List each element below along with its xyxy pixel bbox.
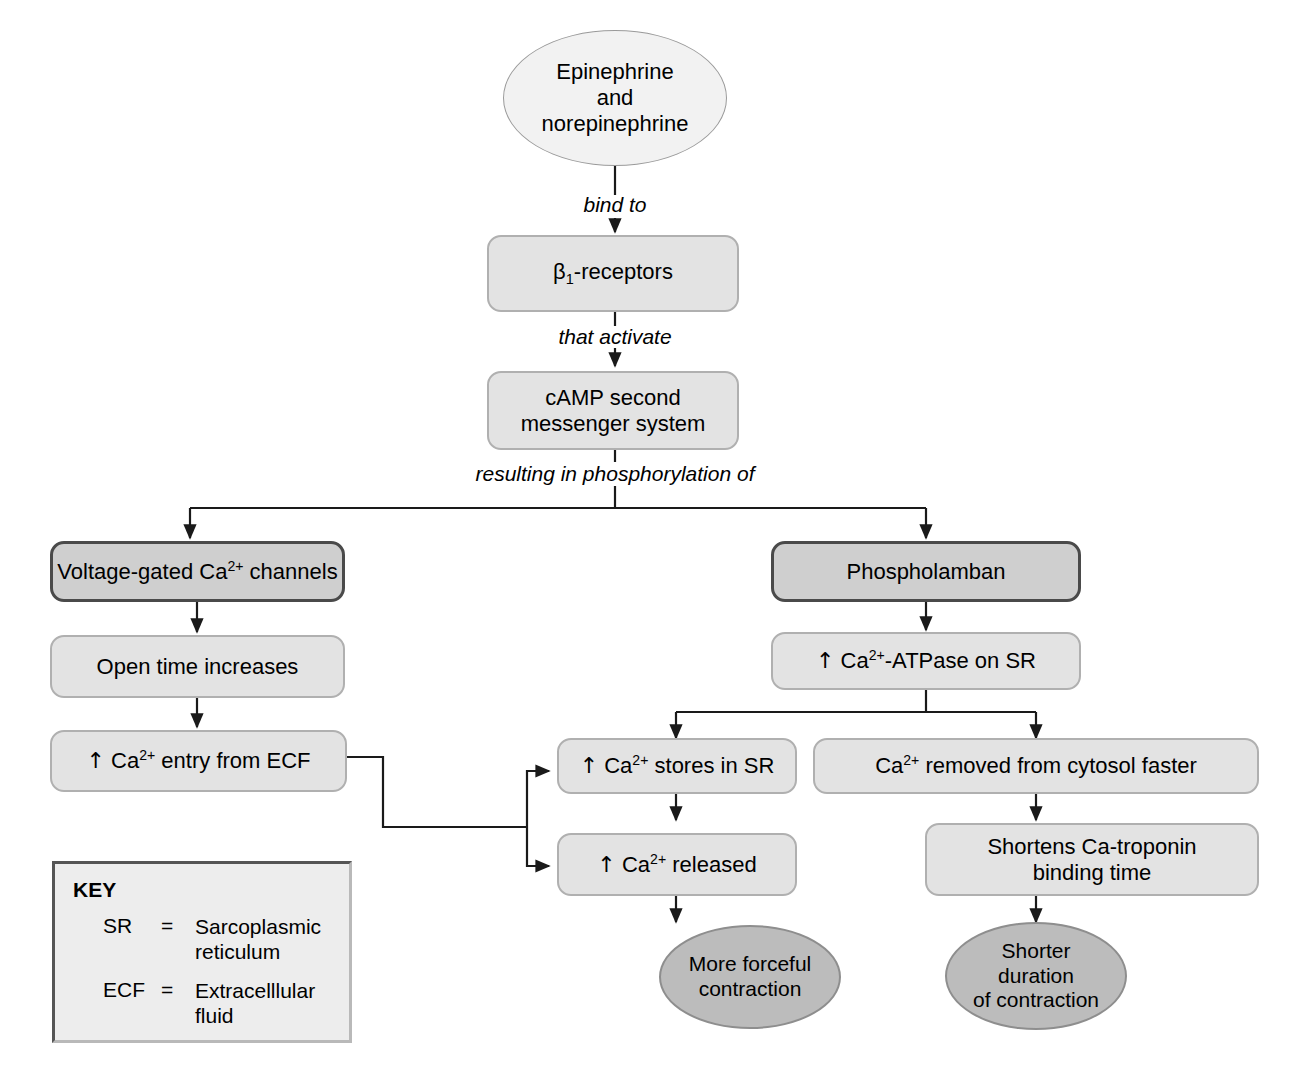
key-row-ecf: ECF = Extracelllularfluid [103, 978, 315, 1028]
node-ca-stores: ↑ Ca2+ stores in SR [557, 738, 797, 794]
node-ca-entry: ↑ Ca2+ entry from ECF [50, 730, 347, 792]
key-legend: KEY SR = Sarcoplasmicreticulum ECF = Ext… [52, 861, 352, 1043]
wire-bridge-to-careleased [527, 827, 549, 866]
node-shortens-troponin-label: Shortens Ca-troponinbinding time [987, 834, 1196, 886]
node-ca-removed: Ca2+ removed from cytosol faster [813, 738, 1259, 794]
key-eq-sr: = [161, 914, 195, 964]
key-def-ecf: Extracelllularfluid [195, 978, 315, 1028]
node-more-forceful: More forcefulcontraction [659, 925, 841, 1029]
node-camp: cAMP secondmessenger system [487, 371, 739, 450]
node-ca-stores-label: ↑ Ca2+ stores in SR [580, 753, 775, 779]
node-ca-released: ↑ Ca2+ released [557, 833, 797, 896]
edge-label-bind-to-text: bind to [583, 193, 646, 216]
node-more-forceful-label: More forcefulcontraction [689, 952, 812, 1002]
node-ca-removed-label: Ca2+ removed from cytosol faster [875, 753, 1197, 779]
node-atpase-label: ↑ Ca2+-ATPase on SR [816, 648, 1036, 674]
key-abbr-sr: SR [103, 914, 161, 964]
node-receptors: β1-receptors [487, 235, 739, 312]
node-atpase: ↑ Ca2+-ATPase on SR [771, 632, 1081, 690]
node-shortens-troponin: Shortens Ca-troponinbinding time [925, 823, 1259, 896]
key-eq-ecf: = [161, 978, 195, 1028]
key-abbr-ecf: ECF [103, 978, 161, 1028]
node-calcium-channels: Voltage-gated Ca2+ channels [50, 541, 345, 602]
edge-label-that-activate: that activate [525, 325, 705, 349]
edge-label-bind-to: bind to [540, 193, 690, 217]
node-shorter-duration: Shorterdurationof contraction [945, 922, 1127, 1030]
wire-bridge-to-castores [527, 771, 549, 827]
node-stimulus: Epinephrineandnorepinephrine [503, 30, 727, 166]
edge-label-that-activate-text: that activate [558, 325, 671, 348]
key-title: KEY [73, 878, 116, 902]
node-receptors-label: β1-receptors [553, 259, 673, 289]
node-phospholamban: Phospholamban [771, 541, 1081, 602]
node-ca-released-label: ↑ Ca2+ released [597, 852, 756, 878]
node-shorter-duration-label: Shorterdurationof contraction [973, 939, 1099, 1013]
key-row-sr: SR = Sarcoplasmicreticulum [103, 914, 321, 964]
node-open-time-label: Open time increases [97, 654, 299, 680]
node-ca-entry-label: ↑ Ca2+ entry from ECF [87, 748, 311, 774]
flowchart-canvas: Epinephrineandnorepinephrine bind to β1-… [0, 0, 1297, 1081]
edge-label-resulting-in: resulting in phosphorylation of [420, 462, 810, 486]
key-def-sr: Sarcoplasmicreticulum [195, 914, 321, 964]
node-calcium-channels-label: Voltage-gated Ca2+ channels [57, 559, 337, 585]
edge-label-resulting-in-text: resulting in phosphorylation of [475, 462, 754, 485]
node-open-time: Open time increases [50, 635, 345, 698]
node-phospholamban-label: Phospholamban [846, 559, 1005, 585]
node-stimulus-label: Epinephrineandnorepinephrine [542, 59, 689, 137]
wire-caentry-bridge [347, 757, 527, 827]
node-camp-label: cAMP secondmessenger system [521, 385, 706, 437]
